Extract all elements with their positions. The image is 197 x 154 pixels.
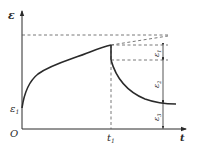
y-axis-label: ε: [8, 9, 15, 22]
extension-dashed-line: [111, 36, 168, 45]
initial-strain-label: ε1: [10, 103, 19, 115]
t1-label: t1: [107, 132, 115, 144]
recovery-label-epsilon1: ε1: [152, 50, 162, 57]
strain-time-diagram: ε t O ε1 t1 ε1 ε2 ε3: [0, 0, 197, 154]
recovery-curve: [111, 60, 176, 104]
x-axis-label: t: [180, 132, 185, 143]
creep-curve: [22, 45, 111, 108]
recovery-label-epsilon3: ε3: [152, 114, 162, 121]
recovery-label-epsilon2: ε2: [152, 81, 162, 88]
origin-label: O: [10, 128, 18, 139]
